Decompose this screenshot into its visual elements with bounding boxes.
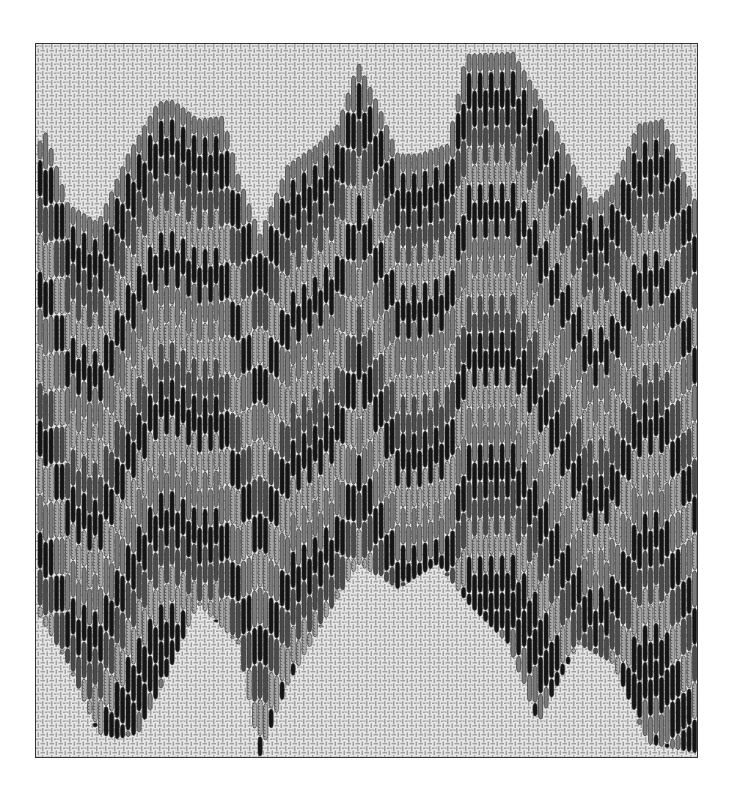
- bargello-pattern: [36, 44, 698, 758]
- needlepoint-chart: [35, 43, 698, 758]
